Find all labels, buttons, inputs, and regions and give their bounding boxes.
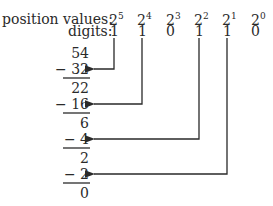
connector-arrows (0, 0, 273, 206)
arrow-2-5 (94, 38, 114, 69)
arrow-2-4 (94, 38, 142, 104)
arrow-2-2 (94, 38, 199, 139)
